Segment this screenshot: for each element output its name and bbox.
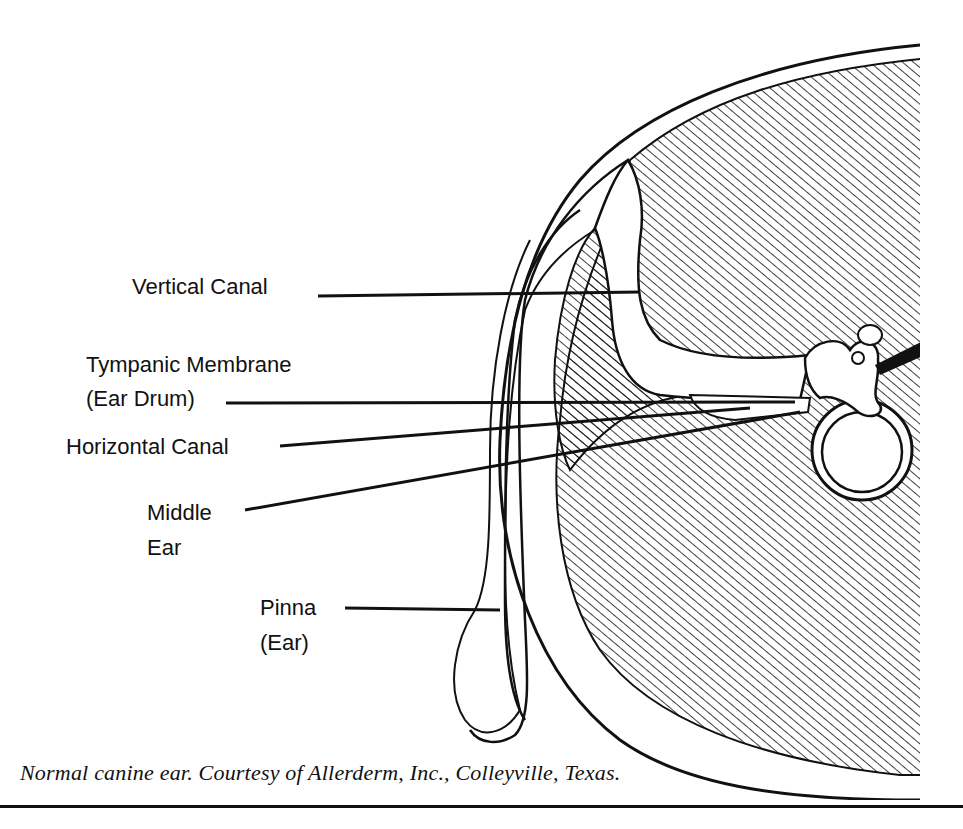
leader-tympanic-membrane xyxy=(226,402,795,403)
leader-pinna xyxy=(345,608,500,610)
label-ear-paren: (Ear) xyxy=(260,630,309,655)
caption-rule xyxy=(0,805,963,808)
label-ear-drum: (Ear Drum) xyxy=(86,386,195,411)
canine-ear-diagram: Vertical Canal Tympanic Membrane (Ear Dr… xyxy=(0,0,963,800)
label-ear: Ear xyxy=(147,535,181,560)
label-middle: Middle xyxy=(147,500,212,525)
label-pinna: Pinna xyxy=(260,595,317,620)
label-horizontal-canal: Horizontal Canal xyxy=(66,434,229,459)
label-vertical-canal: Vertical Canal xyxy=(132,274,268,299)
middle-ear-bulla-inner xyxy=(822,412,902,492)
figure-caption: Normal canine ear. Courtesy of Allerderm… xyxy=(20,760,620,786)
label-tympanic-membrane: Tympanic Membrane xyxy=(86,352,291,377)
ossicle-2 xyxy=(858,325,882,345)
ossicle-1 xyxy=(852,352,864,364)
